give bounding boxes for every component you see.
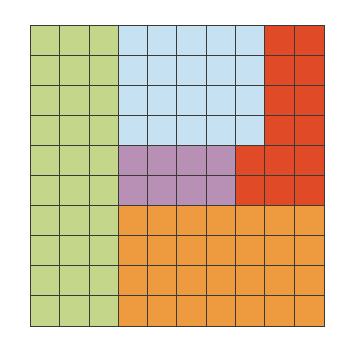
grid-cell-red bbox=[265, 146, 294, 176]
grid-cell-red bbox=[265, 86, 294, 116]
grid-cell-orange bbox=[177, 296, 206, 326]
grid-cell-green bbox=[60, 56, 89, 86]
grid-cell-light-blue bbox=[177, 26, 206, 56]
grid-cell-light-blue bbox=[236, 116, 265, 146]
grid-cell-red bbox=[265, 56, 294, 86]
grid-cell-red bbox=[295, 116, 324, 146]
grid-cell-orange bbox=[236, 206, 265, 236]
grid-cell-light-blue bbox=[236, 56, 265, 86]
grid-cell-red bbox=[265, 116, 294, 146]
grid-cell-red bbox=[236, 176, 265, 206]
grid-cell-green bbox=[60, 266, 89, 296]
grid-cell-green bbox=[31, 86, 60, 116]
grid-cell-purple bbox=[119, 176, 148, 206]
grid-cell-green bbox=[31, 176, 60, 206]
grid-cell-orange bbox=[236, 266, 265, 296]
grid-cell-orange bbox=[295, 296, 324, 326]
grid-cell-purple bbox=[148, 176, 177, 206]
grid-cell-orange bbox=[148, 296, 177, 326]
grid-cell-green bbox=[31, 296, 60, 326]
grid-cell-green bbox=[31, 266, 60, 296]
grid-cell-light-blue bbox=[148, 26, 177, 56]
grid-cell-orange bbox=[207, 296, 236, 326]
grid-cell-orange bbox=[295, 266, 324, 296]
grid-cell-green bbox=[31, 236, 60, 266]
grid-cell-purple bbox=[207, 176, 236, 206]
grid-cell-light-blue bbox=[177, 56, 206, 86]
grid-cell-light-blue bbox=[177, 116, 206, 146]
grid-cell-green bbox=[60, 146, 89, 176]
grid-cell-green bbox=[90, 56, 119, 86]
grid-cell-light-blue bbox=[207, 56, 236, 86]
grid-cell-red bbox=[265, 176, 294, 206]
grid-cell-orange bbox=[295, 236, 324, 266]
grid-cell-green bbox=[90, 236, 119, 266]
grid-cell-light-blue bbox=[236, 86, 265, 116]
grid-cell-light-blue bbox=[119, 56, 148, 86]
grid-cell-light-blue bbox=[119, 86, 148, 116]
grid-cell-orange bbox=[177, 236, 206, 266]
grid-cell-orange bbox=[207, 236, 236, 266]
grid-cell-light-blue bbox=[148, 86, 177, 116]
grid-cell-orange bbox=[265, 266, 294, 296]
grid-cell-green bbox=[90, 176, 119, 206]
grid-cell-purple bbox=[148, 146, 177, 176]
grid-cell-green bbox=[60, 116, 89, 146]
grid-cell-orange bbox=[148, 266, 177, 296]
grid-cell-green bbox=[31, 56, 60, 86]
grid-cell-light-blue bbox=[207, 86, 236, 116]
grid-cell-light-blue bbox=[207, 26, 236, 56]
grid-cell-green bbox=[31, 206, 60, 236]
grid-cell-light-blue bbox=[177, 86, 206, 116]
grid-cell-purple bbox=[119, 146, 148, 176]
grid-cell-green bbox=[60, 176, 89, 206]
grid-cell-green bbox=[60, 296, 89, 326]
grid-cell-orange bbox=[119, 206, 148, 236]
grid-cell-green bbox=[90, 266, 119, 296]
grid-cell-purple bbox=[177, 176, 206, 206]
grid-cell-orange bbox=[265, 206, 294, 236]
grid-cell-orange bbox=[148, 206, 177, 236]
grid-cell-green bbox=[60, 86, 89, 116]
grid-cell-green bbox=[90, 206, 119, 236]
grid-cell-light-blue bbox=[236, 26, 265, 56]
hundred-grid bbox=[30, 25, 325, 327]
grid-cell-orange bbox=[119, 266, 148, 296]
grid-cell-orange bbox=[207, 206, 236, 236]
grid-cell-orange bbox=[236, 296, 265, 326]
grid-cell-red bbox=[295, 86, 324, 116]
grid-cell-purple bbox=[177, 146, 206, 176]
grid-cell-orange bbox=[265, 236, 294, 266]
grid-cell-red bbox=[265, 26, 294, 56]
grid-cell-orange bbox=[207, 266, 236, 296]
grid-cell-red bbox=[295, 146, 324, 176]
grid-cell-light-blue bbox=[148, 116, 177, 146]
grid-cell-green bbox=[90, 26, 119, 56]
grid-cell-green bbox=[31, 146, 60, 176]
grid-cell-light-blue bbox=[148, 56, 177, 86]
grid-cell-green bbox=[90, 86, 119, 116]
grid-cell-orange bbox=[236, 236, 265, 266]
grid-cell-orange bbox=[119, 296, 148, 326]
grid-cell-light-blue bbox=[119, 26, 148, 56]
grid-cell-green bbox=[90, 146, 119, 176]
grid-cell-orange bbox=[119, 236, 148, 266]
grid-cell-purple bbox=[207, 146, 236, 176]
grid-cell-light-blue bbox=[119, 116, 148, 146]
grid-cell-orange bbox=[177, 206, 206, 236]
grid-cell-green bbox=[90, 116, 119, 146]
grid-cell-green bbox=[60, 236, 89, 266]
grid-cell-green bbox=[31, 116, 60, 146]
grid-cell-green bbox=[31, 26, 60, 56]
grid-cell-orange bbox=[177, 266, 206, 296]
grid-cell-red bbox=[295, 56, 324, 86]
grid-cell-red bbox=[236, 146, 265, 176]
grid-cell-red bbox=[295, 176, 324, 206]
grid-cell-green bbox=[60, 206, 89, 236]
grid-cell-light-blue bbox=[207, 116, 236, 146]
grid-cell-orange bbox=[295, 206, 324, 236]
grid-cell-green bbox=[90, 296, 119, 326]
grid-cell-orange bbox=[265, 296, 294, 326]
grid-cell-red bbox=[295, 26, 324, 56]
grid-cell-green bbox=[60, 26, 89, 56]
